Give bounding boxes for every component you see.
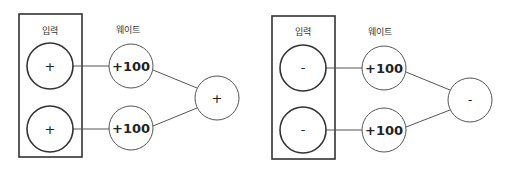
output-node-sign: +: [212, 91, 223, 106]
output-node-sign: -: [468, 92, 473, 107]
input-label: 입력: [295, 26, 311, 37]
weight-label: 웨이트: [368, 26, 392, 37]
connection-line: [406, 72, 450, 90]
weight-value: +100: [365, 61, 403, 76]
connection-line: [153, 108, 197, 126]
connection-line: [153, 70, 197, 88]
diagram-negative: 입력 웨이트 - - +100 +100 -: [272, 16, 492, 159]
connection-line: [406, 110, 450, 127]
weight-label: 웨이트: [116, 24, 140, 35]
input-node-sign: -: [301, 122, 306, 137]
input-label: 입력: [42, 25, 58, 36]
diagram-canvas: 입력 웨이트 + + +100 +100 + 입력 웨이트 - -: [0, 0, 511, 170]
input-node-sign: +: [45, 59, 56, 74]
weight-value: +100: [112, 121, 150, 136]
weight-value: +100: [365, 123, 403, 138]
diagram-positive: 입력 웨이트 + + +100 +100 +: [19, 14, 239, 157]
input-node-sign: +: [45, 122, 56, 137]
weight-value: +100: [112, 59, 150, 74]
input-node-sign: -: [301, 60, 306, 75]
